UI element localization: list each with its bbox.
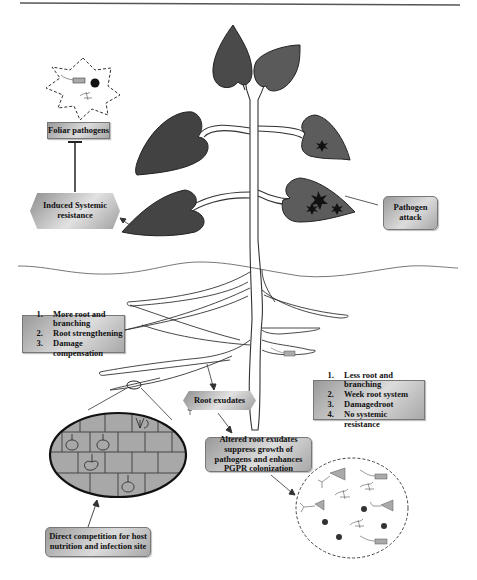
- bacterium-icon: [73, 78, 85, 83]
- pathogen-attack-label: Pathogen attack: [383, 196, 438, 230]
- spore-icon: [91, 79, 100, 88]
- pathogen-attack-connector: [345, 196, 378, 205]
- soil-line: [18, 262, 458, 277]
- magnify-line-left: [88, 388, 127, 410]
- arrow-to-pgpr-circle: [271, 475, 295, 495]
- pathogen-spore-icon: [381, 523, 387, 529]
- direct-competition-label: Direct competition for host nutrition an…: [45, 527, 151, 557]
- arrow-to-root-exudates: [207, 364, 216, 390]
- bacterium-icon: [375, 474, 387, 479]
- altered-root-exudates-label: Altered root exudates suppress growth of…: [205, 437, 312, 472]
- pathogen-spore-icon: [336, 534, 342, 540]
- right-deficits-list: Less root and branching Week root system…: [313, 380, 425, 420]
- leaf-upper-left: [136, 112, 208, 175]
- right-list-item: Less root and branching: [336, 371, 424, 391]
- pathogen-spore-icon: [322, 519, 328, 525]
- induced-systemic-resistance-label: Induced Systemic resistance: [30, 193, 120, 229]
- bacterium-icon: [284, 351, 295, 356]
- dashed-star-icon: [46, 58, 120, 120]
- bacterium-icon: [375, 539, 387, 544]
- pgpr-colonization-circle: [296, 458, 408, 558]
- arrow-to-root-cells: [88, 500, 99, 527]
- magnify-line-right: [141, 388, 172, 420]
- arrow-to-altered-exudates: [218, 413, 232, 433]
- left-list-item: More root and branching: [45, 310, 124, 330]
- left-list-item: Damage compensation: [45, 339, 124, 359]
- root-exudates-label: Root exudates: [183, 391, 256, 410]
- leaf-upper-right: [302, 115, 350, 160]
- foliar-pathogen-cluster: [46, 58, 120, 120]
- magnified-root-cells: [48, 410, 188, 500]
- arrow-to-isr: [120, 218, 130, 225]
- leaf-top-left: [213, 25, 252, 88]
- leaf-top-right: [254, 45, 300, 91]
- right-list-item: No systemic resistance: [336, 410, 424, 430]
- plant-stem: [185, 70, 305, 430]
- plant-diagram-canvas: [0, 0, 477, 580]
- flagella-icon: [271, 348, 284, 353]
- root-system: [99, 270, 348, 390]
- inhibition-arrow: [68, 142, 82, 192]
- top-rule: [20, 3, 460, 5]
- foliar-pathogens-label: Foliar pathogens: [47, 122, 110, 139]
- pathogen-spore-icon: [361, 506, 367, 512]
- leaf-lower-left: [122, 190, 204, 236]
- left-benefits-list: More root and branching Root strengtheni…: [22, 315, 125, 353]
